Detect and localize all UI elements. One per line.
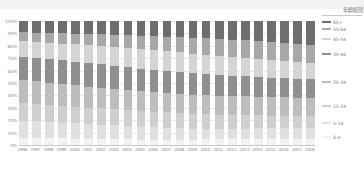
bar-segment[interactable] xyxy=(45,105,54,122)
bar-segment[interactable] xyxy=(280,78,289,97)
bar-segment[interactable] xyxy=(176,94,185,113)
bar-segment[interactable] xyxy=(254,128,263,139)
bar-segment[interactable] xyxy=(267,116,276,129)
bar-column[interactable] xyxy=(293,21,302,145)
bar-segment[interactable] xyxy=(306,116,315,128)
bar-segment[interactable] xyxy=(280,116,289,128)
bar-segment[interactable] xyxy=(58,33,67,43)
bar-segment[interactable] xyxy=(280,43,289,61)
bar-segment[interactable] xyxy=(58,138,67,145)
bar-segment[interactable] xyxy=(228,40,237,57)
bar-segment[interactable] xyxy=(189,114,198,129)
bar-segment[interactable] xyxy=(110,47,119,66)
bar-segment[interactable] xyxy=(254,59,263,77)
bar-column[interactable] xyxy=(202,21,211,145)
bar-segment[interactable] xyxy=(267,60,276,78)
bar-segment[interactable] xyxy=(254,77,263,97)
bar-segment[interactable] xyxy=(189,95,198,114)
bar-segment[interactable] xyxy=(110,35,119,47)
bar-segment[interactable] xyxy=(58,106,67,123)
bar-segment[interactable] xyxy=(71,107,80,123)
bar-segment[interactable] xyxy=(137,49,146,68)
bar-segment[interactable] xyxy=(228,129,237,139)
bar-column[interactable] xyxy=(150,21,159,145)
bar-segment[interactable] xyxy=(254,21,263,41)
bar-segment[interactable] xyxy=(293,44,302,62)
bar-segment[interactable] xyxy=(228,57,237,76)
bar-segment[interactable] xyxy=(150,21,159,36)
bar-segment[interactable] xyxy=(176,72,185,94)
bar-segment[interactable] xyxy=(163,21,172,37)
bar-segment[interactable] xyxy=(71,44,80,61)
bar-segment[interactable] xyxy=(84,21,93,34)
bar-segment[interactable] xyxy=(176,21,185,37)
bar-segment[interactable] xyxy=(241,21,250,40)
bar-segment[interactable] xyxy=(32,33,41,43)
bar-segment[interactable] xyxy=(110,66,119,89)
bar-segment[interactable] xyxy=(124,48,133,67)
bar-segment[interactable] xyxy=(71,85,80,107)
bar-segment[interactable] xyxy=(124,35,133,48)
bar-column[interactable] xyxy=(189,21,198,145)
bar-segment[interactable] xyxy=(202,74,211,95)
bar-segment[interactable] xyxy=(137,91,146,111)
bar-segment[interactable] xyxy=(293,21,302,44)
bar-segment[interactable] xyxy=(293,98,302,116)
bar-segment[interactable] xyxy=(163,71,172,93)
bar-segment[interactable] xyxy=(215,115,224,129)
bar-segment[interactable] xyxy=(45,138,54,145)
bar-segment[interactable] xyxy=(32,21,41,33)
bar-segment[interactable] xyxy=(228,76,237,96)
bar-segment[interactable] xyxy=(150,112,159,128)
bar-segment[interactable] xyxy=(241,58,250,77)
bar-segment[interactable] xyxy=(215,39,224,56)
bar-segment[interactable] xyxy=(124,110,133,126)
bar-segment[interactable] xyxy=(137,36,146,49)
bar-segment[interactable] xyxy=(241,76,250,96)
bar-segment[interactable] xyxy=(97,108,106,124)
legend-item[interactable]: 0-4 xyxy=(322,135,340,140)
bar-segment[interactable] xyxy=(97,125,106,139)
bar-segment[interactable] xyxy=(84,87,93,108)
bar-segment[interactable] xyxy=(19,138,28,145)
bar-segment[interactable] xyxy=(150,50,159,70)
bar-segment[interactable] xyxy=(306,128,315,139)
bar-column[interactable] xyxy=(280,21,289,145)
bar-column[interactable] xyxy=(97,21,106,145)
bar-segment[interactable] xyxy=(45,122,54,138)
bar-segment[interactable] xyxy=(110,89,119,109)
bar-segment[interactable] xyxy=(202,114,211,129)
bar-segment[interactable] xyxy=(267,21,276,42)
bar-segment[interactable] xyxy=(293,116,302,128)
bar-segment[interactable] xyxy=(71,123,80,138)
bar-segment[interactable] xyxy=(84,108,93,124)
bar-segment[interactable] xyxy=(150,36,159,50)
bar-segment[interactable] xyxy=(163,93,172,112)
bar-column[interactable] xyxy=(137,21,146,145)
bar-column[interactable] xyxy=(45,21,54,145)
bar-segment[interactable] xyxy=(124,90,133,110)
bar-column[interactable] xyxy=(267,21,276,145)
bar-segment[interactable] xyxy=(45,33,54,43)
bar-segment[interactable] xyxy=(84,45,93,63)
bar-segment[interactable] xyxy=(215,56,224,75)
bar-segment[interactable] xyxy=(32,121,41,137)
bar-column[interactable] xyxy=(84,21,93,145)
bar-segment[interactable] xyxy=(58,123,67,139)
bar-segment[interactable] xyxy=(137,69,146,92)
bar-segment[interactable] xyxy=(241,40,250,57)
bar-segment[interactable] xyxy=(241,96,250,115)
bar-segment[interactable] xyxy=(19,103,28,120)
bar-segment[interactable] xyxy=(71,21,80,34)
bar-segment[interactable] xyxy=(280,61,289,78)
bar-segment[interactable] xyxy=(267,42,276,60)
bar-segment[interactable] xyxy=(189,54,198,74)
bar-segment[interactable] xyxy=(267,97,276,116)
bar-column[interactable] xyxy=(124,21,133,145)
bar-segment[interactable] xyxy=(58,84,67,106)
bar-segment[interactable] xyxy=(293,79,302,98)
bar-column[interactable] xyxy=(306,21,315,145)
bar-column[interactable] xyxy=(215,21,224,145)
bar-segment[interactable] xyxy=(150,92,159,111)
bar-segment[interactable] xyxy=(176,128,185,139)
